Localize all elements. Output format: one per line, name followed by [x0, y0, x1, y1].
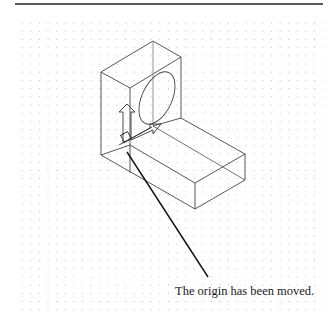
ucs-icon: [119, 104, 161, 145]
leader-line: [127, 152, 208, 277]
isometric-model: [0, 0, 330, 319]
figure-caption: The origin has been moved.: [175, 284, 314, 299]
